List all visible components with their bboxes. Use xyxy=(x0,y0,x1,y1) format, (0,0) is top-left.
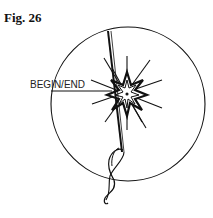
embroidery-diagram: BEGIN/END xyxy=(0,0,213,218)
star-stitch-icon xyxy=(91,56,162,130)
begin-end-label: BEGIN/END xyxy=(30,79,85,90)
